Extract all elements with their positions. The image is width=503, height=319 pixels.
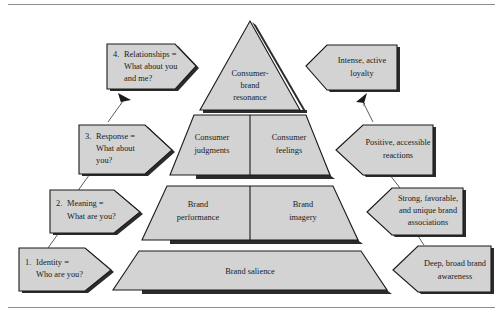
outcome-2-line2: reactions xyxy=(383,151,413,160)
brand-salience-label: Brand salience xyxy=(225,267,275,276)
step-3-line3: you? xyxy=(96,156,113,165)
step-1-line2: Who are you? xyxy=(36,270,83,279)
left-step-2[interactable]: 2. Meaning = What are you? xyxy=(50,190,143,235)
cbbe-pyramid-figure: Consumer- brand resonance Consumer judgm… xyxy=(0,0,503,319)
resonance-line2: brand xyxy=(240,81,260,90)
brand-imagery-line2: imagery xyxy=(289,213,317,222)
outcome-1-line2: loyalty xyxy=(350,69,374,78)
step-4-line2: What about you xyxy=(124,62,178,71)
left-step-4[interactable]: 4. Relationships = What about you and me… xyxy=(107,44,199,91)
resonance-line3: resonance xyxy=(233,93,267,102)
right-outcome-identity[interactable]: Deep, broad brand awareness xyxy=(393,246,494,294)
arrowhead-outcome1 xyxy=(356,93,367,107)
outcome-4-line1: Deep, broad brand xyxy=(424,259,487,268)
outcome-4-line2: awareness xyxy=(438,272,472,281)
resonance-line1: Consumer- xyxy=(231,69,268,78)
step-2-line2: What are you? xyxy=(67,212,116,221)
outcome-1-arrow xyxy=(306,45,397,90)
connector-outcome2-to-outcome1 xyxy=(363,102,373,122)
outcome-2-arrow xyxy=(336,125,433,175)
step-4-line1: Relationships = xyxy=(124,50,177,59)
connector-step3-to-step4 xyxy=(108,101,123,122)
brand-performance-line2: performance xyxy=(177,213,220,222)
pyramid-level-meaning[interactable]: Brand performance Brand imagery xyxy=(142,186,363,244)
right-outcome-response[interactable]: Positive, accessible reactions xyxy=(336,125,436,177)
pyramid-level-response[interactable]: Consumer judgments Consumer feelings xyxy=(170,115,335,179)
outcome-3-line3: associations xyxy=(408,218,448,227)
outcome-3-line2: and unique brand xyxy=(399,206,458,215)
step-1-line1: Identity = xyxy=(36,258,69,267)
step-4-number: 4. xyxy=(113,50,119,59)
step-3-number: 3. xyxy=(85,132,91,141)
arrowhead-step4 xyxy=(118,93,131,106)
step-2-number: 2. xyxy=(56,199,62,208)
consumer-feelings-line1: Consumer xyxy=(272,133,307,142)
consumer-judgments-line2: judgments xyxy=(194,146,230,155)
consumer-feelings-line2: feelings xyxy=(276,146,303,155)
outcome-3-line1: Strong, favorable, xyxy=(398,194,458,203)
step-4-line3: and me? xyxy=(124,74,152,83)
consumer-judgments-line1: Consumer xyxy=(195,133,230,142)
step-3-line2: What about xyxy=(96,144,136,153)
pyramid-level-resonance[interactable]: Consumer- brand resonance xyxy=(200,21,307,113)
step-2-line1: Meaning = xyxy=(67,199,104,208)
step-1-number: 1. xyxy=(25,258,31,267)
brand-imagery-line1: Brand xyxy=(293,200,314,209)
outcome-2-line1: Positive, accessible xyxy=(365,138,430,147)
step-3-line1: Response = xyxy=(96,132,135,141)
pyramid-diagram: Consumer- brand resonance Consumer judgm… xyxy=(0,0,503,319)
right-outcome-meaning[interactable]: Strong, favorable, and unique brand asso… xyxy=(367,188,466,237)
left-step-1[interactable]: 1. Identity = Who are you? xyxy=(19,248,114,293)
outcome-4-arrow xyxy=(393,246,491,292)
right-outcome-resonance[interactable]: Intense, active loyalty xyxy=(306,45,400,92)
outcome-1-line1: Intense, active xyxy=(338,56,387,65)
pyramid-level-identity[interactable]: Brand salience xyxy=(113,251,392,294)
left-step-3[interactable]: 3. Response = What about you? xyxy=(79,125,175,176)
brand-performance-line1: Brand xyxy=(188,200,209,209)
